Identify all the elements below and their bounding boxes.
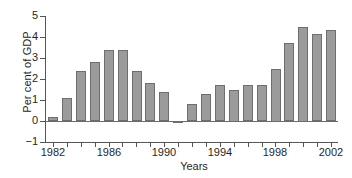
y-axis-tick <box>40 100 45 101</box>
bar <box>145 83 155 121</box>
bar <box>243 85 253 121</box>
bar <box>229 90 239 122</box>
y-axis-tick-label: 2 <box>0 73 38 84</box>
bar <box>326 30 336 121</box>
y-axis-tick <box>40 79 45 80</box>
x-axis-tick-label: 1994 <box>200 146 240 158</box>
bar <box>298 27 308 122</box>
bar <box>201 94 211 121</box>
bar <box>132 71 142 121</box>
bar <box>215 85 225 121</box>
x-axis-tick <box>136 143 137 147</box>
y-axis-tick-label: 4 <box>0 31 38 42</box>
bar <box>62 98 72 121</box>
x-axis-tick <box>303 143 304 147</box>
bar <box>271 69 281 122</box>
bar-chart-figure: Per cent of GDP 543210−1 198219861990199… <box>0 0 352 178</box>
y-axis-tick <box>40 16 45 17</box>
bar <box>257 85 267 121</box>
bar <box>312 34 322 121</box>
bar <box>173 121 183 123</box>
bar <box>159 92 169 121</box>
x-axis-tick-label: 2002 <box>311 146 351 158</box>
bar <box>48 117 58 121</box>
y-axis-tick-label: 3 <box>0 52 38 63</box>
y-axis-tick <box>40 37 45 38</box>
y-axis-tick <box>40 142 45 143</box>
y-axis-tick-label: 0 <box>0 115 38 126</box>
x-axis-tick <box>81 143 82 147</box>
y-axis-tick-label: 5 <box>0 10 38 21</box>
bar <box>90 62 100 121</box>
x-axis-tick-label: 1998 <box>255 146 295 158</box>
x-axis-title: Years <box>44 160 344 172</box>
x-axis-tick <box>192 143 193 147</box>
bar <box>104 50 114 121</box>
y-axis-tick <box>40 58 45 59</box>
y-axis-tick <box>40 121 45 122</box>
bar <box>187 104 197 121</box>
y-axis-tick-label: 1 <box>0 94 38 105</box>
x-axis-tick <box>248 143 249 147</box>
bar <box>284 43 294 121</box>
x-axis-tick-label: 1990 <box>144 146 184 158</box>
x-axis-tick-label: 1986 <box>89 146 129 158</box>
bar <box>76 71 86 121</box>
x-axis-tick-label: 1982 <box>33 146 73 158</box>
bar <box>118 50 128 121</box>
